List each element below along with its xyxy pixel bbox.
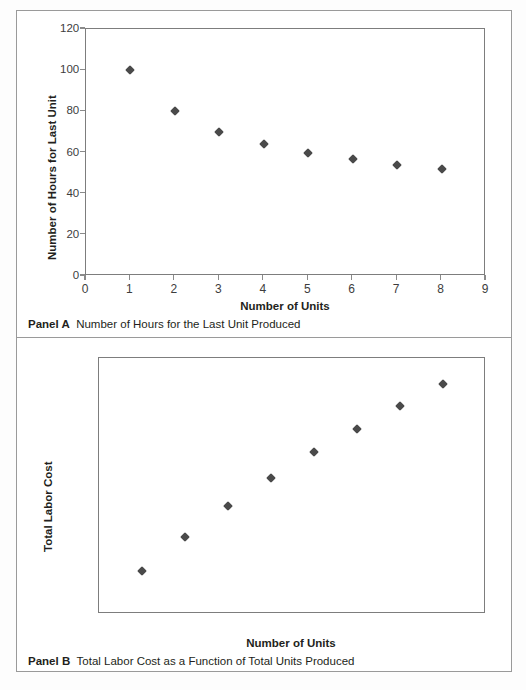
data-point bbox=[303, 148, 313, 158]
panel-b-y-axis-title: Total Labor Cost bbox=[42, 461, 54, 552]
x-tick-label: 9 bbox=[482, 282, 489, 296]
x-tick-label: 7 bbox=[393, 282, 400, 296]
y-tick-mark bbox=[80, 233, 85, 234]
x-tick-label: 4 bbox=[259, 282, 266, 296]
data-point bbox=[125, 65, 135, 75]
data-point bbox=[352, 424, 362, 434]
data-point bbox=[180, 532, 190, 542]
panel-a-plot-frame bbox=[85, 28, 485, 275]
panel-b-tag: Panel B bbox=[28, 655, 70, 667]
x-tick-label: 0 bbox=[82, 282, 89, 296]
x-tick-label: 1 bbox=[126, 282, 133, 296]
panel-a: 020406080100120 0123456789 Number of Hou… bbox=[0, 0, 526, 340]
data-point bbox=[437, 164, 447, 174]
x-tick-mark bbox=[484, 275, 485, 280]
panel-b: $0$5,000$10,000$15,000$20,000$25,000$30,… bbox=[0, 340, 526, 672]
data-point bbox=[214, 127, 224, 137]
panel-b-x-axis-title: Number of Units bbox=[246, 637, 335, 649]
data-point bbox=[137, 566, 147, 576]
panel-a-caption: Panel A Number of Hours for the Last Uni… bbox=[28, 318, 301, 330]
data-point bbox=[348, 154, 358, 164]
data-point bbox=[266, 473, 276, 483]
x-tick-label: 2 bbox=[171, 282, 178, 296]
x-tick-label: 5 bbox=[304, 282, 311, 296]
y-tick-mark bbox=[80, 27, 85, 28]
x-tick-mark bbox=[351, 275, 352, 280]
y-tick-label: 120 bbox=[27, 22, 79, 34]
x-tick-mark bbox=[84, 275, 85, 280]
data-point bbox=[259, 139, 269, 149]
y-tick-label: 0 bbox=[27, 269, 79, 281]
y-tick-mark bbox=[80, 110, 85, 111]
data-point bbox=[170, 106, 180, 116]
data-point bbox=[309, 447, 319, 457]
data-point bbox=[392, 160, 402, 170]
panel-a-description: Number of Hours for the Last Unit Produc… bbox=[76, 318, 300, 330]
y-tick-mark bbox=[80, 69, 85, 70]
panel-divider bbox=[17, 337, 511, 338]
data-point bbox=[395, 401, 405, 411]
x-tick-label: 6 bbox=[348, 282, 355, 296]
page-bottom-rule bbox=[17, 671, 511, 672]
figure-page: 020406080100120 0123456789 Number of Hou… bbox=[0, 0, 526, 690]
x-tick-mark bbox=[307, 275, 308, 280]
panel-b-plot-area bbox=[99, 358, 484, 612]
x-tick-label: 3 bbox=[215, 282, 222, 296]
panel-b-description: Total Labor Cost as a Function of Total … bbox=[77, 655, 355, 667]
x-tick-mark bbox=[218, 275, 219, 280]
panel-a-x-axis-title: Number of Units bbox=[240, 300, 329, 312]
x-tick-label: 8 bbox=[437, 282, 444, 296]
x-tick-mark bbox=[129, 275, 130, 280]
panel-a-tag: Panel A bbox=[28, 318, 70, 330]
x-tick-mark bbox=[396, 275, 397, 280]
y-tick-label: 100 bbox=[27, 63, 79, 75]
panel-b-caption: Panel B Total Labor Cost as a Function o… bbox=[28, 655, 354, 667]
data-point bbox=[223, 502, 233, 512]
y-tick-mark bbox=[80, 192, 85, 193]
panel-b-plot-frame bbox=[98, 357, 485, 613]
x-tick-mark bbox=[173, 275, 174, 280]
panel-a-plot-area bbox=[86, 29, 484, 274]
x-tick-mark bbox=[440, 275, 441, 280]
data-point bbox=[438, 379, 448, 389]
panel-a-y-axis-title: Number of Hours for Last Unit bbox=[46, 95, 58, 260]
x-tick-mark bbox=[262, 275, 263, 280]
y-tick-mark bbox=[80, 151, 85, 152]
